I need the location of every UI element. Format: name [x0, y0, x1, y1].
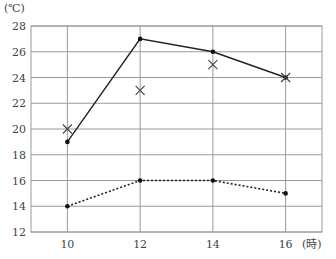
y-tick-label: 12	[12, 226, 26, 239]
y-tick-label: 14	[12, 200, 26, 213]
dot-marker-icon	[211, 49, 216, 54]
dot-marker-icon	[138, 178, 143, 183]
chart-grid	[31, 26, 322, 232]
x-axis-ticks: 10121416	[60, 238, 292, 251]
series-line	[67, 39, 285, 142]
y-tick-label: 26	[12, 46, 26, 59]
dot-marker-icon	[65, 204, 70, 209]
dot-marker-icon	[65, 140, 70, 145]
y-tick-label: 20	[12, 123, 26, 136]
x-tick-label: 14	[206, 238, 220, 251]
temperature-chart: 121416182022242628 10121416 (℃) (時)	[0, 0, 336, 259]
y-tick-label: 18	[12, 149, 26, 162]
x-tick-label: 12	[133, 238, 147, 251]
x-tick-label: 10	[60, 238, 74, 251]
series-line	[67, 181, 285, 207]
dot-marker-icon	[211, 178, 216, 183]
y-tick-label: 22	[12, 97, 26, 110]
x-tick-label: 16	[279, 238, 293, 251]
chart-series	[63, 37, 290, 209]
y-tick-label: 24	[12, 72, 26, 85]
y-axis-unit-label: (℃)	[4, 2, 25, 15]
x-axis-unit-label: (時)	[302, 238, 322, 251]
y-axis-ticks: 121416182022242628	[12, 20, 26, 239]
y-tick-label: 16	[12, 175, 26, 188]
y-tick-label: 28	[12, 20, 26, 33]
dot-marker-icon	[283, 191, 288, 196]
dot-marker-icon	[138, 37, 143, 42]
